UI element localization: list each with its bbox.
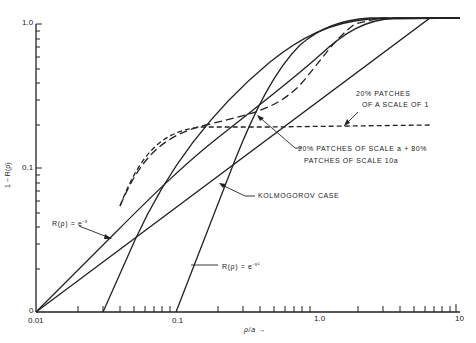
x-axis-label: ρ/a → (244, 326, 266, 333)
annotation-patches1-line2: OF A SCALE OF 1 (362, 101, 429, 108)
x-tick-10: 10 (455, 314, 464, 323)
annotation-gauss-sup: -x² (252, 261, 260, 267)
annotation-exp-sup: -x (82, 218, 87, 224)
y-tick-0: 0 (29, 306, 33, 315)
annotation-patches2-line1: 20% PATCHES OF SCALE a + 80% (298, 145, 427, 152)
leader-kolmogorov (222, 185, 255, 196)
x-tick-01: 0.1 (172, 316, 183, 325)
y-ticks (36, 24, 42, 269)
annotation-exp-text: R(ρ) = e (52, 220, 82, 227)
annotation-exp: R(ρ) = e-x (52, 218, 88, 227)
x-ticks (78, 304, 456, 312)
y-tick-01: 0.1 (22, 163, 33, 172)
annotation-gauss: R(ρ) = e-x² (222, 261, 260, 270)
y-tick-1: 1.0 (22, 18, 33, 27)
annotation-kolmogorov: KOLMOGOROV CASE (258, 192, 339, 199)
leader-patches2 (258, 116, 302, 148)
annotation-patches1-line1: 20% PATCHES (356, 90, 411, 97)
annotation-patches2-line2: PATCHES OF SCALE 10a (304, 157, 398, 164)
x-tick-1: 1.0 (314, 314, 325, 323)
annotation-gauss-text: R(ρ) = e (222, 263, 252, 270)
y-axis-label: 1 − R(ρ) (4, 162, 11, 188)
x-tick-001: 0.01 (28, 316, 44, 325)
curve-steep (103, 18, 460, 312)
chart-plot (0, 0, 476, 343)
